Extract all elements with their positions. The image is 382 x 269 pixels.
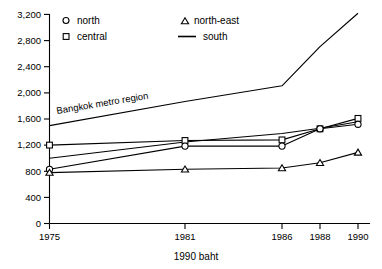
x-tick-label: 1975: [39, 231, 60, 242]
y-tick-label: 0: [36, 218, 41, 229]
legend-label-north: north: [77, 15, 100, 26]
y-axis-tick-labels: 0 400 800 1,200 1,600 2,000 2,400 2,800 …: [17, 9, 41, 229]
inline-label-bangkok-metro-region: Bangkok metro region: [56, 90, 149, 116]
data-point-north: [279, 143, 285, 149]
data-point-central: [279, 137, 285, 143]
legend-marker-square-icon: [63, 34, 69, 40]
series-line-north-east: [50, 152, 359, 172]
y-tick-label: 2,400: [17, 61, 41, 72]
y-tick-label: 800: [25, 166, 41, 177]
series-line-central: [50, 118, 359, 145]
x-axis-ticks: [50, 224, 359, 230]
y-tick-label: 2,000: [17, 87, 41, 98]
line-chart: 0 400 800 1,200 1,600 2,000 2,400 2,800 …: [0, 0, 382, 269]
data-point-central: [47, 142, 53, 148]
y-tick-label: 400: [25, 192, 41, 203]
x-axis-title: 1990 baht: [174, 251, 219, 262]
x-axis-tick-labels: 1975 1981 1986 1988 1990: [39, 231, 369, 242]
y-tick-label: 3,200: [17, 9, 41, 20]
legend-label-north-east: north-east: [194, 15, 239, 26]
x-tick-label: 1986: [271, 231, 292, 242]
chart-legend: north north-east central south: [63, 15, 239, 42]
y-tick-label: 2,800: [17, 35, 41, 46]
x-tick-label: 1981: [174, 231, 195, 242]
y-tick-label: 1,200: [17, 139, 41, 150]
y-tick-label: 1,600: [17, 113, 41, 124]
data-point-central: [355, 116, 361, 122]
data-point-north: [355, 121, 361, 127]
chart-svg: 0 400 800 1,200 1,600 2,000 2,400 2,800 …: [0, 0, 382, 269]
x-tick-label: 1990: [347, 231, 368, 242]
data-point-north: [182, 143, 188, 149]
legend-label-central: central: [77, 31, 107, 42]
legend-marker-triangle-icon: [181, 18, 188, 24]
x-tick-label: 1988: [309, 231, 330, 242]
data-point-north: [317, 126, 323, 132]
y-axis-ticks: [44, 14, 50, 223]
legend-marker-circle-icon: [63, 18, 69, 24]
legend-label-south: south: [203, 31, 227, 42]
data-point-north-east: [354, 149, 361, 155]
